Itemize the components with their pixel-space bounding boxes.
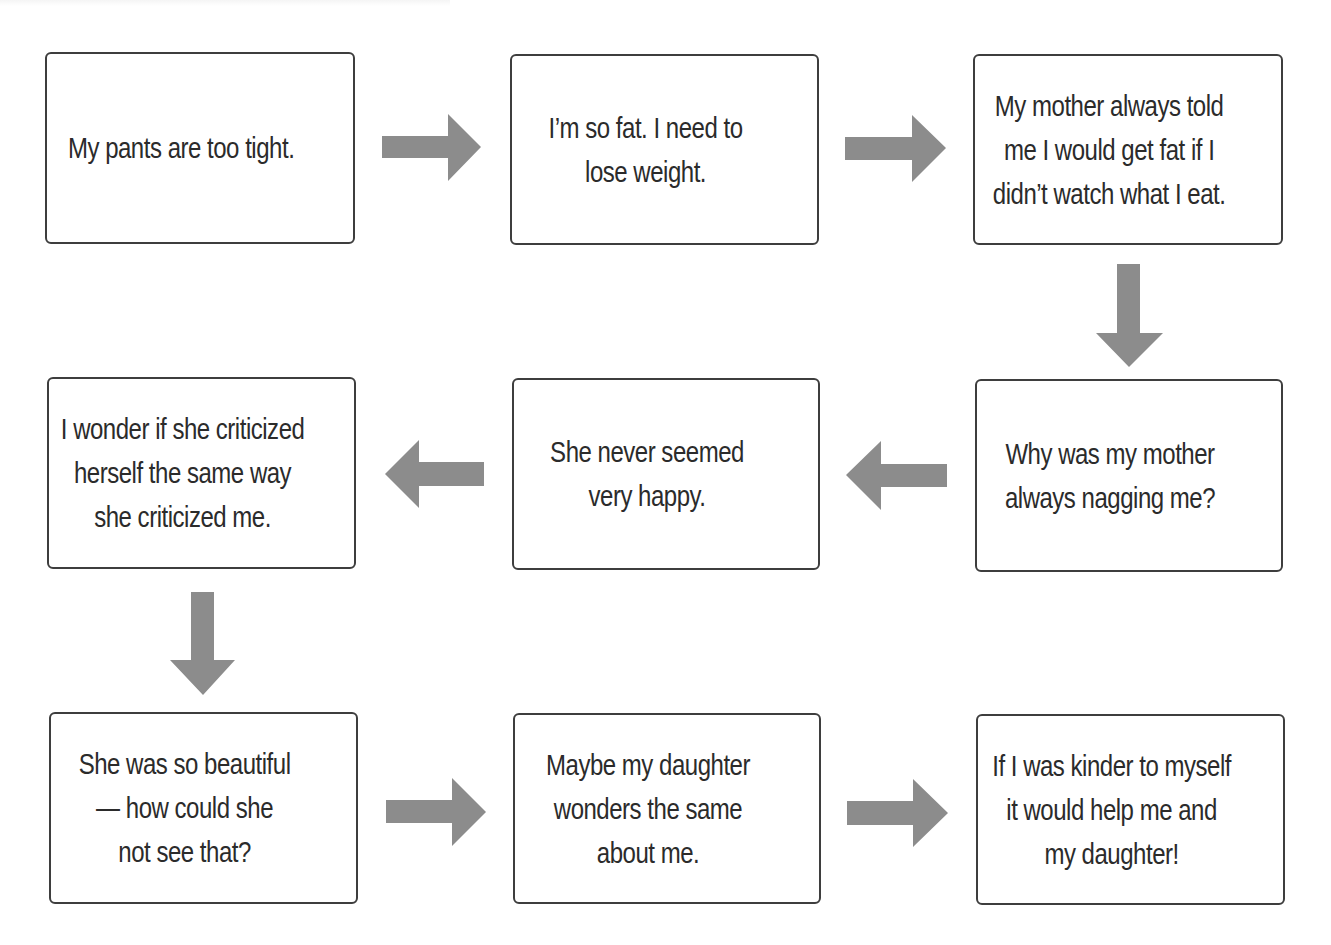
flow-node-so-fat: I’m so fat. I need to lose weight. bbox=[510, 54, 819, 245]
node-text: If I was kinder to myself it would help … bbox=[974, 744, 1249, 876]
arrow-right-icon bbox=[847, 779, 949, 849]
arrow-right-icon bbox=[382, 113, 482, 183]
faint-header-remnant bbox=[0, 0, 450, 6]
arrow-right-icon bbox=[845, 114, 947, 184]
flow-node-never-seemed-happy: She never seemed very happy. bbox=[512, 378, 820, 570]
flow-node-pants-too-tight: My pants are too tight. bbox=[45, 52, 355, 244]
arrow-right-icon bbox=[386, 778, 487, 848]
node-text: I wonder if she criticized herself the s… bbox=[45, 407, 320, 539]
node-text: Maybe my daughter wonders the same about… bbox=[511, 743, 785, 875]
flow-node-kinder-to-myself: If I was kinder to myself it would help … bbox=[976, 714, 1285, 905]
flow-node-mother-nagging: Why was my mother always nagging me? bbox=[975, 379, 1283, 572]
node-text: My mother always told me I would get fat… bbox=[971, 84, 1246, 216]
node-text: Why was my mother always nagging me? bbox=[973, 432, 1247, 520]
arrow-down-icon bbox=[170, 592, 236, 696]
arrow-left-icon bbox=[846, 441, 948, 511]
arrow-left-icon bbox=[385, 440, 485, 510]
node-text: She was so beautiful — how could she not… bbox=[47, 742, 322, 874]
arrow-down-icon bbox=[1096, 264, 1164, 368]
node-text: My pants are too tight. bbox=[43, 126, 318, 170]
node-text: She never seemed very happy. bbox=[510, 430, 784, 518]
node-text: I’m so fat. I need to lose weight. bbox=[508, 106, 783, 194]
flow-node-wonder-if-she-criticized: I wonder if she criticized herself the s… bbox=[47, 377, 356, 569]
flow-node-mother-told-me: My mother always told me I would get fat… bbox=[973, 54, 1283, 245]
flow-node-she-was-beautiful: She was so beautiful — how could she not… bbox=[49, 712, 358, 904]
flow-node-daughter-wonders: Maybe my daughter wonders the same about… bbox=[513, 713, 821, 904]
